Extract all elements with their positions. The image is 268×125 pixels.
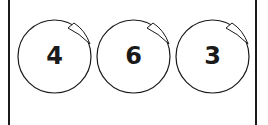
number-ball-1: 4 [17, 19, 92, 94]
ball-number: 3 [175, 19, 250, 94]
number-ball-3: 3 [175, 19, 250, 94]
ball-number: 6 [96, 19, 171, 94]
number-ball-2: 6 [96, 19, 171, 94]
ball-number: 4 [17, 19, 92, 94]
